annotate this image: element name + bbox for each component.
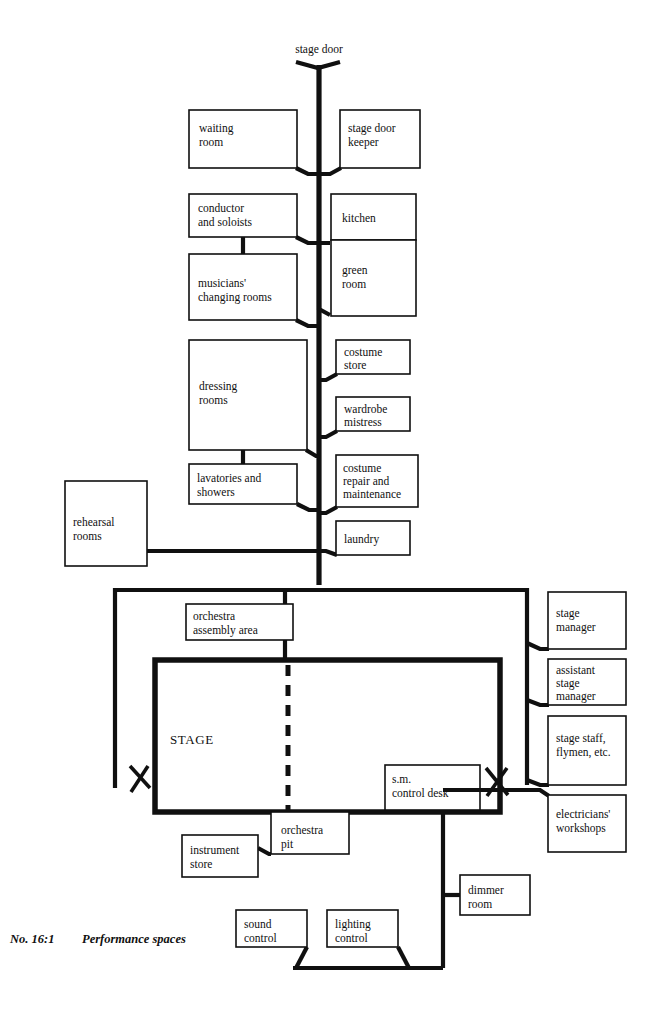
node-conductor-and-soloists[interactable]: conductor and soloists: [189, 194, 297, 237]
node-waiting-room[interactable]: waiting room: [189, 110, 297, 168]
caption-title: Performance spaces: [82, 932, 186, 946]
dressing-rooms-label-line1: dressing: [199, 380, 238, 393]
figure-canvas: stage door waiting room stage door keepe…: [0, 0, 659, 1024]
stage-door-keeper-label-line2: keeper: [348, 136, 379, 149]
connector-kitchen-green: [319, 243, 330, 315]
node-lavatories-and-showers[interactable]: lavatories and showers: [189, 464, 297, 504]
stage-door-keeper-label-line1: stage door: [348, 122, 396, 135]
node-musicians-changing-rooms[interactable]: musicians' changing rooms: [189, 254, 297, 320]
lavatories-label-line1: lavatories and: [197, 472, 261, 484]
dressing-rooms-label-line2: rooms: [199, 394, 228, 406]
connector-instrument-store: [258, 848, 271, 854]
conductor-label-line2: and soloists: [198, 216, 253, 228]
costume-store-label-line2: store: [344, 359, 366, 371]
orchestra-pit-label-line2: pit: [281, 838, 294, 851]
node-costume-repair-and-maintenance[interactable]: costume repair and maintenance: [336, 455, 418, 507]
stage-doorway-left-icon: [130, 766, 150, 792]
costume-repair-label-line2: repair and: [343, 475, 390, 488]
node-orchestra-pit[interactable]: orchestra pit: [271, 812, 349, 854]
sm-control-desk-label-line1: s.m.: [392, 773, 411, 785]
orchestra-pit-label-line1: orchestra: [281, 824, 323, 836]
sound-control-label-line2: control: [244, 932, 277, 944]
green-room-label-line1: green: [342, 264, 368, 277]
connector-conductor: [296, 237, 319, 243]
assistant-sm-label-line1: assistant: [556, 664, 596, 676]
stage-manager-label-line1: stage: [556, 607, 580, 620]
node-laundry[interactable]: laundry: [336, 521, 410, 555]
connector-waiting-room: [296, 168, 319, 174]
connector-stage-door-keeper: [319, 168, 341, 174]
waiting-room-label-line2: room: [199, 136, 223, 148]
node-orchestra-assembly-area[interactable]: orchestra assembly area: [186, 604, 293, 640]
stage-staff-label-line2: flymen, etc.: [556, 746, 611, 759]
node-green-room[interactable]: green room: [331, 240, 416, 316]
rehearsal-rooms-label-line1: rehearsal: [73, 516, 115, 528]
costume-store-label-line1: costume: [344, 346, 382, 358]
lighting-control-label-line2: control: [335, 932, 368, 944]
connector-costume-repair: [319, 507, 337, 513]
node-sm-control-desk[interactable]: s.m. control desk: [385, 765, 480, 810]
node-stage-staff[interactable]: stage staff, flymen, etc.: [548, 716, 626, 785]
wardrobe-mistress-label-line2: mistress: [344, 416, 382, 428]
electricians-label-line2: workshops: [556, 822, 606, 835]
lavatories-and-showers-box[interactable]: [189, 464, 297, 504]
stage-label: STAGE: [170, 732, 214, 747]
instrument-store-label-line1: instrument: [190, 844, 240, 856]
connector-assistant-stage-manager: [527, 700, 549, 705]
node-dimmer-room[interactable]: dimmer room: [460, 875, 530, 915]
node-instrument-store[interactable]: instrument store: [182, 835, 258, 877]
connector-wardrobe-mistress: [319, 431, 337, 437]
stage-manager-label-line2: manager: [556, 621, 596, 634]
caption-number: No. 16:1: [9, 932, 54, 946]
sm-control-desk-label-line2: control desk: [392, 787, 449, 799]
musicians-label-line1: musicians': [198, 277, 246, 289]
node-wardrobe-mistress[interactable]: wardrobe mistress: [336, 397, 410, 431]
node-costume-store[interactable]: costume store: [336, 340, 410, 374]
instrument-store-box[interactable]: [182, 835, 258, 877]
kitchen-label: kitchen: [342, 212, 376, 224]
node-stage-manager[interactable]: stage manager: [548, 592, 626, 649]
node-dressing-rooms[interactable]: dressing rooms: [189, 340, 307, 450]
connector-stage-staff: [527, 780, 549, 785]
node-electricians-workshops[interactable]: electricians' workshops: [548, 795, 626, 852]
costume-repair-label-line1: costume: [343, 462, 381, 474]
conductor-label-line1: conductor: [198, 202, 244, 214]
stage-staff-label-line1: stage staff,: [556, 732, 606, 745]
orchestra-assembly-label-line2: assembly area: [193, 624, 258, 637]
sound-control-label-line1: sound: [244, 918, 272, 930]
node-sound-control[interactable]: sound control: [236, 910, 307, 947]
performance-spaces-diagram: stage door waiting room stage door keepe…: [0, 0, 659, 1024]
assistant-sm-label-line3: manager: [556, 690, 596, 703]
rehearsal-rooms-label-line2: rooms: [73, 530, 102, 542]
laundry-label: laundry: [344, 533, 379, 546]
node-stage-door-keeper[interactable]: stage door keeper: [340, 110, 420, 168]
green-room-label-line2: room: [342, 278, 366, 290]
electricians-label-line1: electricians': [556, 808, 610, 820]
musicians-label-line2: changing rooms: [198, 291, 272, 304]
assistant-sm-label-line2: stage: [556, 677, 580, 690]
connector-laundry: [319, 551, 337, 555]
dimmer-room-label-line2: room: [468, 898, 492, 910]
stage-door-label: stage door: [295, 43, 343, 56]
waiting-room-label-line1: waiting: [199, 122, 234, 135]
connector-stage-manager: [527, 643, 549, 649]
dimmer-room-label-line1: dimmer: [468, 884, 504, 896]
lighting-control-label-line1: lighting: [335, 918, 371, 931]
node-assistant-stage-manager[interactable]: assistant stage manager: [548, 659, 626, 705]
orchestra-assembly-label-line1: orchestra: [193, 610, 235, 622]
wardrobe-mistress-label-line1: wardrobe: [344, 403, 387, 415]
costume-repair-label-line3: maintenance: [343, 488, 401, 500]
node-kitchen[interactable]: kitchen: [331, 194, 416, 240]
node-rehearsal-rooms[interactable]: rehearsal rooms: [65, 481, 147, 566]
connector-costume-store: [319, 374, 337, 380]
instrument-store-label-line2: store: [190, 858, 212, 870]
node-lighting-control[interactable]: lighting control: [327, 910, 398, 947]
lavatories-label-line2: showers: [197, 486, 235, 498]
control-room-bus: [293, 947, 443, 968]
